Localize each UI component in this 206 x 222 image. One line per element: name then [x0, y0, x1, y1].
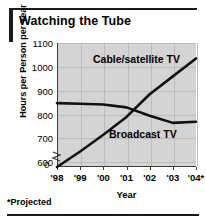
x-axis-tick-label: '01	[120, 172, 133, 183]
y-axis-tick-label: 1000	[32, 61, 53, 72]
y-axis-tick-label: 700	[37, 133, 53, 144]
x-axis-tick-label: '98	[51, 172, 64, 183]
gridline-vertical	[197, 43, 198, 166]
chart-title: Watching the Tube	[19, 14, 131, 28]
y-axis-tick-label: 1100	[33, 38, 53, 49]
series-line-broadcast-tv	[57, 103, 196, 123]
x-axis-tick-label: '02	[143, 172, 156, 183]
x-axis-tick-mark	[127, 167, 128, 170]
decorative-bracket-vertical	[9, 8, 13, 42]
y-axis-tick-label: 900	[37, 85, 53, 96]
series-label-broadcast-tv: Broadcast TV	[109, 128, 177, 140]
x-axis-tick-mark	[196, 167, 197, 170]
x-axis-tick-mark	[173, 167, 174, 170]
series-line-cable-satellite-tv	[57, 59, 196, 168]
plot-wrapper: 60070080090010001100 '98'99'00'01'02'03'…	[57, 43, 196, 167]
chart-footnote: *Projected	[7, 197, 52, 207]
y-axis-zero-label: 0	[44, 159, 49, 170]
decorative-bracket-horizontal	[9, 8, 197, 10]
x-axis-tick-mark	[103, 167, 104, 170]
x-axis-tick-mark	[150, 167, 151, 170]
y-axis-tick-label: 800	[37, 109, 53, 120]
x-axis-tick-mark	[80, 167, 81, 170]
x-axis-tick-label: '04*	[188, 172, 205, 183]
x-axis-tick-label: '03	[166, 172, 179, 183]
axis-break-icon	[51, 150, 63, 164]
x-axis-tick-label: '99	[74, 172, 87, 183]
x-axis-title: Year	[57, 189, 196, 200]
x-axis-tick-label: '00	[97, 172, 110, 183]
y-axis-title: Hours per Person per Year	[18, 0, 28, 126]
bottom-rule	[7, 214, 199, 216]
series-label-cable-satellite-tv: Cable/satellite TV	[93, 53, 180, 65]
chart-figure: Watching the Tube Hours per Person per Y…	[0, 0, 206, 222]
